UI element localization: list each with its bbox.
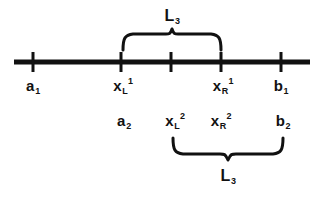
label-xR1-base: x — [213, 77, 222, 94]
label-a1-base: a — [26, 77, 35, 94]
upper-brace — [123, 29, 221, 50]
label-b1: b1 — [274, 78, 289, 93]
upper-brace-label-base: L — [164, 7, 174, 24]
label-a2: a2 — [117, 113, 131, 128]
label-xL1-sub: L — [122, 86, 128, 96]
label-xL2-sup: 2 — [180, 111, 185, 121]
label-a1: a1 — [26, 78, 40, 93]
lower-brace-label-sub: 3 — [231, 176, 236, 186]
label-xL1-base: x — [113, 77, 122, 94]
label-xL2-base: x — [165, 112, 174, 129]
label-b2-base: b — [276, 112, 285, 129]
label-a2-base: a — [117, 112, 126, 129]
lower-brace-label: L3 — [220, 168, 235, 184]
label-xR2-base: x — [211, 112, 220, 129]
label-xR2-sup: 2 — [227, 111, 232, 121]
label-xR2: xR2 — [211, 113, 231, 128]
label-b2-sub: 2 — [286, 121, 291, 131]
label-xL2-sub: L — [174, 121, 180, 131]
upper-brace-label-sub: 3 — [175, 16, 180, 26]
lower-brace — [173, 138, 283, 160]
label-xL1: xL1 — [113, 78, 132, 93]
label-xR2-sub: R — [220, 121, 227, 131]
label-xL1-sup: 1 — [128, 76, 133, 86]
label-b2: b2 — [276, 113, 291, 128]
label-xR1-sub: R — [222, 86, 229, 96]
label-b1-sub: 1 — [284, 86, 289, 96]
label-b1-base: b — [274, 77, 283, 94]
label-xR1-sup: 1 — [229, 76, 234, 86]
upper-brace-label: L3 — [164, 8, 179, 24]
lower-brace-label-base: L — [220, 167, 230, 184]
label-a2-sub: 2 — [126, 121, 131, 131]
figure-canvas — [0, 0, 319, 198]
label-xR1: xR1 — [213, 78, 233, 93]
label-xL2: xL2 — [165, 113, 184, 128]
label-a1-sub: 1 — [35, 86, 40, 96]
number-line-figure: L3 a1 xL1 xR1 b1 a2 xL2 xR2 b2 L3 — [0, 0, 319, 198]
